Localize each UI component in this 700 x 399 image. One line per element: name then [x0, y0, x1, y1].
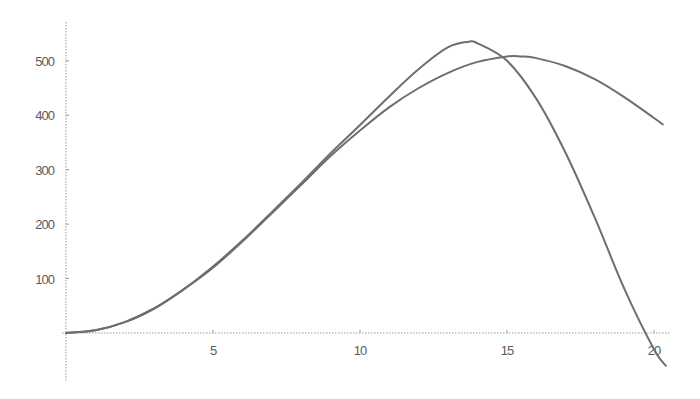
- x-tick-label: 5: [210, 343, 217, 358]
- x-ticks: 5101520: [210, 330, 661, 358]
- y-tick-label: 300: [35, 163, 54, 178]
- series-line-2: [66, 56, 663, 333]
- x-tick-label: 15: [501, 343, 514, 358]
- y-tick-label: 500: [35, 54, 54, 69]
- series-line-1: [66, 41, 666, 366]
- line-chart: 5101520 100200300400500: [0, 0, 700, 399]
- series-group: [66, 41, 666, 366]
- y-tick-label: 100: [35, 272, 54, 287]
- y-tick-label: 400: [35, 108, 54, 123]
- x-tick-label: 10: [354, 343, 367, 358]
- y-ticks: 100200300400500: [35, 54, 69, 287]
- y-tick-label: 200: [35, 217, 54, 232]
- axes: [62, 22, 670, 382]
